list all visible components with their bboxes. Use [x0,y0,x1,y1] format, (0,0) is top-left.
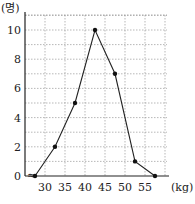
x-tick-label: 35 [58,181,72,194]
x-tick-label: 55 [138,181,152,194]
x-tick-label: 30 [38,181,52,194]
data-point [93,28,97,32]
x-axis-unit: (kg) [171,181,193,194]
y-axis-unit: (명) [1,2,20,15]
data-point [113,72,117,76]
x-tick-label: 45 [98,181,112,194]
data-point [33,174,37,178]
y-tick-label: 8 [14,53,21,66]
data-point [133,159,137,163]
y-tick-label: 4 [14,112,21,125]
data-point [73,101,77,105]
data-point [153,174,157,178]
y-tick-label: 2 [14,141,21,154]
frequency-polygon-chart: 0246810(명)≈303540455055(kg) [0,0,195,204]
y-tick-label: 0 [14,170,21,183]
data-point [53,145,57,149]
y-tick-label: 6 [14,82,21,95]
y-tick-label: 10 [7,24,21,37]
x-tick-label: 50 [118,181,132,194]
x-tick-label: 40 [78,181,92,194]
